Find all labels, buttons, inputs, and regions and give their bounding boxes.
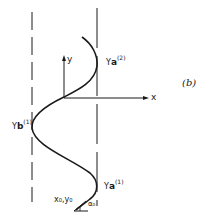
panel-label: (b) xyxy=(182,78,196,88)
origin-label: x₀,y₀ xyxy=(54,196,72,204)
x-axis-label: x xyxy=(151,93,156,102)
label-yb1: Yb(1) xyxy=(12,122,32,131)
y-axis-label: y xyxy=(67,55,72,64)
diagram-canvas xyxy=(0,0,205,216)
angle-label: α₀ xyxy=(88,201,95,208)
label-ya1: Ya(1) xyxy=(104,182,123,191)
label-ya2: Ya(2) xyxy=(106,58,125,67)
y-axis-arrow-icon xyxy=(62,55,66,61)
trajectory-curve xyxy=(32,37,97,210)
x-axis-arrow-icon xyxy=(143,96,149,100)
